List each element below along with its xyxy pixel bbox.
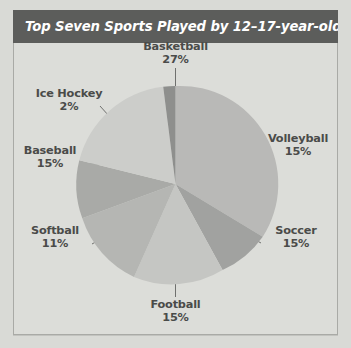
slice-label-football-name: Football xyxy=(150,298,200,311)
pie-slices xyxy=(76,86,278,285)
chart-figure: Top Seven Sports Played by 12–17-year-ol… xyxy=(0,0,351,348)
slice-label-softball-name: Softball xyxy=(31,224,79,237)
slice-label-basketball: Basketball 27% xyxy=(124,40,227,67)
slice-label-basketball-name: Basketball xyxy=(143,40,208,53)
slice-label-ice-hockey-name: Ice Hockey xyxy=(36,87,103,100)
slice-label-baseball-value: 15% xyxy=(15,157,85,170)
figure-title-bar: Top Seven Sports Played by 12–17-year-ol… xyxy=(13,10,338,43)
slice-label-volleyball: Volleyball 15% xyxy=(260,132,336,159)
slice-label-softball: Softball 11% xyxy=(20,224,90,251)
slice-label-basketball-value: 27% xyxy=(124,53,227,66)
slice-label-ice-hockey-value: 2% xyxy=(28,100,110,113)
slice-label-volleyball-value: 15% xyxy=(260,145,336,158)
slice-label-football-value: 15% xyxy=(136,311,215,324)
page-title: Top Seven Sports Played by 12–17-year-ol… xyxy=(13,19,338,34)
pie-chart: Basketball 27% Ice Hockey 2% Baseball 15… xyxy=(14,44,337,334)
slice-label-softball-value: 11% xyxy=(20,237,90,250)
slice-label-football: Football 15% xyxy=(136,298,215,325)
slice-label-ice-hockey: Ice Hockey 2% xyxy=(28,87,110,114)
slice-label-soccer-name: Soccer xyxy=(275,224,316,237)
slice-label-soccer: Soccer 15% xyxy=(265,224,327,251)
slice-label-baseball: Baseball 15% xyxy=(15,144,85,171)
slice-label-soccer-value: 15% xyxy=(265,237,327,250)
slice-label-volleyball-name: Volleyball xyxy=(268,132,328,145)
slice-label-baseball-name: Baseball xyxy=(24,144,76,157)
